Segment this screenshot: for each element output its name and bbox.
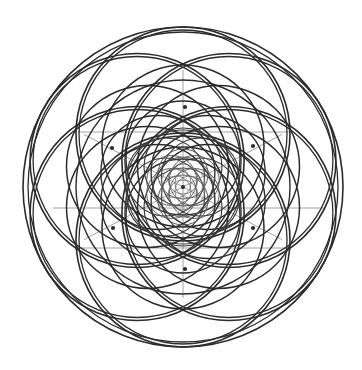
node-bottom <box>183 267 187 271</box>
node-top <box>183 105 187 109</box>
flower-of-life-figure <box>0 0 362 370</box>
node-lower-left <box>111 226 115 230</box>
canvas-background <box>0 0 362 370</box>
node-upper-right <box>251 144 255 148</box>
node-center <box>181 185 185 189</box>
mandala-canvas <box>0 0 362 370</box>
node-lower-right <box>251 226 255 230</box>
node-upper-left <box>110 146 114 150</box>
